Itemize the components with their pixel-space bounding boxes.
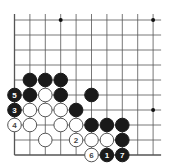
move-number-label: 5 xyxy=(12,91,17,100)
white-stone xyxy=(69,118,83,132)
black-stone xyxy=(116,118,130,132)
black-stone xyxy=(54,73,68,87)
black-stone xyxy=(85,118,99,132)
black-stone-move-7: 7 xyxy=(116,148,130,162)
black-stone xyxy=(100,118,114,132)
black-stone xyxy=(85,88,99,102)
move-number-label: 6 xyxy=(89,151,94,160)
white-stone xyxy=(23,118,37,132)
star-point-icon xyxy=(151,108,155,112)
white-stone xyxy=(100,133,114,147)
black-stone xyxy=(116,133,130,147)
move-number-label: 1 xyxy=(105,151,110,160)
black-stone-move-1: 1 xyxy=(100,148,114,162)
black-stone-move-3: 3 xyxy=(8,103,22,117)
black-stone xyxy=(23,88,37,102)
white-stone-move-4: 4 xyxy=(8,118,22,132)
black-stone xyxy=(69,103,83,117)
move-number-label: 4 xyxy=(12,121,17,130)
white-stone xyxy=(54,118,68,132)
star-point-icon xyxy=(59,18,63,22)
star-point-icon xyxy=(151,18,155,22)
white-stone-move-6: 6 xyxy=(85,148,99,162)
white-stone xyxy=(39,88,53,102)
go-board-diagram: 5342617 xyxy=(0,0,172,167)
move-number-label: 2 xyxy=(74,136,79,145)
black-stone-move-5: 5 xyxy=(8,88,22,102)
move-number-label: 7 xyxy=(120,151,125,160)
black-stone xyxy=(39,73,53,87)
white-stone xyxy=(54,103,68,117)
white-stone xyxy=(39,133,53,147)
stones-layer: 5342617 xyxy=(8,73,129,162)
black-stone xyxy=(54,88,68,102)
white-stone xyxy=(23,103,37,117)
move-number-label: 3 xyxy=(12,106,17,115)
black-stone xyxy=(23,73,37,87)
white-stone xyxy=(39,103,53,117)
white-stone-move-2: 2 xyxy=(69,133,83,147)
white-stone xyxy=(85,133,99,147)
